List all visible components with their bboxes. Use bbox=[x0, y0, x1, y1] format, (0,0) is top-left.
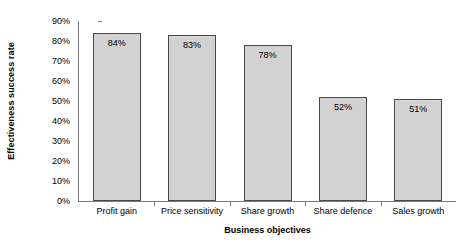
x-axis-category-label: Price sensitivity bbox=[161, 206, 223, 216]
y-axis-tick-label: 70% bbox=[52, 56, 70, 66]
y-axis-title: Effectiveness success rate bbox=[0, 0, 22, 202]
bar-value-label: 78% bbox=[245, 50, 291, 60]
bar-group[interactable]: 78% bbox=[244, 21, 292, 201]
bar-chart: Effectiveness success rate 0%10%20%30%40… bbox=[0, 0, 470, 243]
x-axis-tick-labels: Profit gainPrice sensitivityShare growth… bbox=[79, 206, 456, 222]
bar-group[interactable]: 51% bbox=[394, 21, 442, 201]
y-axis-title-text: Effectiveness success rate bbox=[6, 42, 16, 160]
bar-value-label: 84% bbox=[94, 38, 140, 48]
y-axis-tick-label: 10% bbox=[52, 176, 70, 186]
y-axis-tick-label: 60% bbox=[52, 76, 70, 86]
x-axis-category-label: Share defence bbox=[314, 206, 373, 216]
bar[interactable]: 83% bbox=[168, 35, 216, 201]
bar-value-label: 83% bbox=[169, 40, 215, 50]
bar-value-label: 52% bbox=[320, 102, 366, 112]
bar[interactable]: 51% bbox=[394, 99, 442, 201]
x-axis-category-label: Share growth bbox=[241, 206, 295, 216]
bar-group[interactable]: 52% bbox=[319, 21, 367, 201]
y-axis-tick-label: 20% bbox=[52, 156, 70, 166]
y-axis-tick-label: 30% bbox=[52, 136, 70, 146]
y-axis-tick-labels: 0%10%20%30%40%50%60%70%80%90% bbox=[24, 0, 74, 243]
bar-value-label: 51% bbox=[395, 104, 441, 114]
bar[interactable]: 78% bbox=[244, 45, 292, 201]
y-axis-tick-label: 40% bbox=[52, 116, 70, 126]
y-axis-tick-label: 90% bbox=[52, 16, 70, 26]
x-axis-category-label: Sales growth bbox=[392, 206, 444, 216]
y-axis-tick-label: 80% bbox=[52, 36, 70, 46]
bar[interactable]: 84% bbox=[93, 33, 141, 201]
bar-group[interactable]: 84% bbox=[93, 21, 141, 201]
plot-area: 84%83%78%52%51% bbox=[79, 21, 456, 201]
x-axis-title: Business objectives bbox=[79, 225, 456, 235]
y-axis-tick-label: 50% bbox=[52, 96, 70, 106]
bar[interactable]: 52% bbox=[319, 97, 367, 201]
y-axis-tick-label: 0% bbox=[57, 196, 70, 206]
bar-group[interactable]: 83% bbox=[168, 21, 216, 201]
x-axis-category-label: Profit gain bbox=[96, 206, 137, 216]
